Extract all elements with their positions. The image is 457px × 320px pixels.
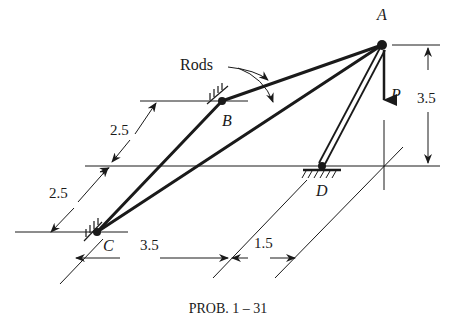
joint-b xyxy=(218,97,226,105)
label-d: D xyxy=(315,182,328,199)
figure-caption: PROB. 1 – 31 xyxy=(189,301,268,316)
dim-height-a: 3.5 xyxy=(417,90,436,106)
joint-c xyxy=(93,228,101,236)
label-rods: Rods xyxy=(180,56,213,73)
truss-diagram: A B C D P Rods 3.5 2.5 2.5 3.5 1.5 PROB.… xyxy=(0,0,457,320)
dim-lower-slant: 2.5 xyxy=(49,185,68,201)
label-c: C xyxy=(103,237,114,254)
joint-d xyxy=(318,162,326,170)
label-b: B xyxy=(222,112,232,129)
support-d xyxy=(302,170,341,178)
joint-a xyxy=(377,40,387,50)
rod-ab xyxy=(222,45,382,101)
d-slant-ext xyxy=(213,180,307,278)
label-p: P xyxy=(390,86,401,103)
label-a: A xyxy=(376,6,387,23)
reference-lines xyxy=(15,45,440,284)
dim-upper-slant: 2.5 xyxy=(110,122,129,138)
dim-bottom-left: 3.5 xyxy=(140,237,159,253)
dim-bottom-right: 1.5 xyxy=(254,235,273,251)
c-slant-ext xyxy=(60,239,103,284)
